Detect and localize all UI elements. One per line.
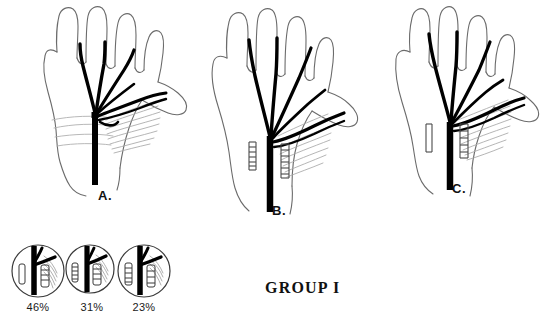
- group-title: GROUP I: [265, 279, 341, 297]
- cross-section-inset-1: 46%: [10, 243, 66, 325]
- ligament-marker-b-right: [281, 144, 289, 178]
- ligament-marker-b-left: [249, 142, 256, 170]
- panel-label-b: B.: [272, 203, 286, 218]
- panel-label-a: A.: [98, 188, 112, 203]
- inset-percent-1: 46%: [10, 301, 66, 313]
- cross-section-inset-3: 23%: [116, 243, 172, 325]
- ligament-marker-c-left: [426, 124, 432, 152]
- median-nerve-b: [249, 38, 344, 212]
- panel-label-c: C.: [452, 181, 466, 196]
- median-nerve-c: [429, 32, 524, 190]
- hand-diagram-c: [368, 0, 551, 210]
- cross-section-inset-group: 46% 31%: [6, 243, 186, 325]
- hand-diagram-b: [186, 6, 386, 234]
- inset-percent-3: 23%: [116, 301, 172, 313]
- cross-section-inset-2: 31%: [64, 243, 120, 325]
- median-nerve-a: [80, 42, 166, 185]
- inset-percent-2: 31%: [64, 301, 120, 313]
- hand-diagram-a: [0, 0, 200, 215]
